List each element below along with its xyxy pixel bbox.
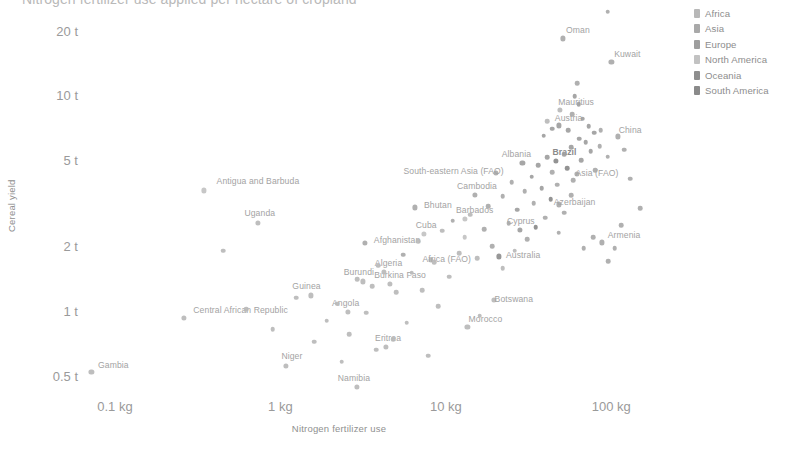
scatter-point[interactable] [571, 178, 576, 183]
scatter-point[interactable] [550, 170, 555, 175]
scatter-point[interactable] [606, 259, 611, 264]
scatter-point[interactable] [355, 277, 360, 282]
scatter-point[interactable] [486, 204, 491, 209]
scatter-point[interactable] [201, 188, 206, 193]
scatter-point[interactable] [581, 246, 586, 251]
scatter-point[interactable] [598, 128, 603, 133]
scatter-point[interactable] [562, 211, 567, 216]
scatter-point[interactable] [523, 189, 528, 194]
scatter-point[interactable] [376, 263, 381, 268]
scatter-point[interactable] [472, 192, 477, 197]
scatter-point[interactable] [638, 206, 643, 211]
scatter-point[interactable] [609, 59, 614, 64]
scatter-point[interactable] [462, 235, 467, 240]
scatter-point[interactable] [572, 94, 577, 99]
scatter-point[interactable] [548, 197, 553, 202]
scatter-point[interactable] [600, 240, 605, 245]
scatter-point[interactable] [588, 149, 593, 154]
scatter-point[interactable] [525, 237, 530, 242]
scatter-point[interactable] [181, 315, 186, 320]
scatter-point[interactable] [412, 205, 417, 210]
scatter-point[interactable] [387, 282, 392, 287]
scatter-point[interactable] [457, 251, 462, 256]
scatter-point[interactable] [566, 128, 571, 133]
scatter-point[interactable] [465, 324, 470, 329]
scatter-point[interactable] [529, 174, 534, 179]
scatter-point[interactable] [255, 221, 260, 226]
scatter-point[interactable] [244, 307, 249, 312]
scatter-point[interactable] [490, 244, 495, 249]
scatter-point[interactable] [477, 313, 482, 318]
scatter-point[interactable] [383, 344, 388, 349]
scatter-point[interactable] [576, 102, 581, 107]
scatter-point[interactable] [556, 231, 561, 236]
scatter-point[interactable] [354, 384, 359, 389]
scatter-point[interactable] [394, 290, 399, 295]
scatter-point[interactable] [586, 124, 591, 129]
scatter-point[interactable] [324, 318, 329, 323]
scatter-point[interactable] [308, 293, 313, 298]
scatter-point[interactable] [312, 339, 317, 344]
scatter-point[interactable] [347, 332, 352, 337]
scatter-point[interactable] [562, 152, 567, 157]
scatter-point[interactable] [565, 166, 570, 171]
scatter-point[interactable] [482, 227, 487, 232]
scatter-point[interactable] [517, 227, 522, 232]
scatter-point[interactable] [583, 140, 588, 145]
scatter-point[interactable] [509, 180, 514, 185]
scatter-point[interactable] [556, 123, 561, 128]
legend-item-south-america[interactable]: South America [694, 85, 769, 96]
scatter-point[interactable] [500, 194, 505, 199]
scatter-point[interactable] [569, 193, 574, 198]
scatter-point[interactable] [569, 145, 574, 150]
scatter-point[interactable] [591, 235, 596, 240]
scatter-point[interactable] [221, 248, 226, 253]
scatter-point[interactable] [340, 360, 345, 365]
scatter-point[interactable] [422, 231, 427, 236]
scatter-point[interactable] [283, 363, 288, 368]
scatter-point[interactable] [506, 221, 511, 226]
scatter-point[interactable] [534, 225, 539, 230]
scatter-point[interactable] [401, 253, 406, 258]
scatter-point[interactable] [404, 320, 409, 325]
scatter-point[interactable] [543, 216, 548, 221]
scatter-point[interactable] [363, 241, 368, 246]
legend-item-africa[interactable]: Africa [694, 8, 769, 19]
scatter-point[interactable] [440, 229, 445, 234]
scatter-point[interactable] [553, 159, 558, 164]
scatter-point[interactable] [436, 304, 441, 309]
scatter-point[interactable] [500, 266, 505, 271]
scatter-point[interactable] [575, 81, 580, 86]
scatter-point[interactable] [450, 218, 455, 223]
scatter-point[interactable] [545, 155, 550, 160]
scatter-point[interactable] [628, 177, 633, 182]
scatter-point[interactable] [475, 256, 480, 261]
scatter-point[interactable] [560, 36, 565, 41]
scatter-point[interactable] [580, 116, 585, 121]
scatter-point[interactable] [360, 279, 365, 284]
scatter-point[interactable] [416, 239, 421, 244]
scatter-point[interactable] [420, 288, 425, 293]
scatter-point[interactable] [432, 260, 437, 265]
scatter-point[interactable] [493, 171, 498, 176]
scatter-point[interactable] [550, 126, 555, 131]
scatter-point[interactable] [613, 246, 618, 251]
scatter-point[interactable] [335, 301, 340, 306]
scatter-point[interactable] [462, 216, 467, 221]
scatter-point[interactable] [592, 131, 597, 136]
scatter-point[interactable] [512, 248, 517, 253]
scatter-point[interactable] [491, 298, 496, 303]
scatter-point[interactable] [370, 284, 375, 289]
scatter-point[interactable] [391, 337, 396, 342]
scatter-point[interactable] [468, 212, 473, 217]
scatter-point[interactable] [271, 327, 276, 332]
legend-item-north-america[interactable]: North America [694, 54, 769, 65]
scatter-point[interactable] [345, 309, 350, 314]
scatter-point[interactable] [593, 168, 598, 173]
scatter-point[interactable] [579, 158, 584, 163]
scatter-point[interactable] [364, 310, 369, 315]
scatter-point[interactable] [605, 9, 610, 14]
scatter-point[interactable] [294, 295, 299, 300]
scatter-point[interactable] [381, 269, 386, 274]
scatter-point[interactable] [541, 133, 546, 138]
